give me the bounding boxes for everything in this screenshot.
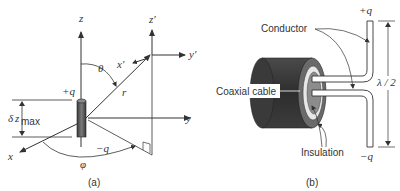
- plus-q-label-b: +q: [359, 4, 372, 16]
- half-wavelength-label: λ / 2: [376, 76, 396, 88]
- panel-a-caption: (a): [88, 177, 100, 188]
- panel-b-caption: (b): [306, 177, 318, 188]
- minus-q-label-b: −q: [360, 150, 373, 162]
- conductor-leader-upper: [315, 29, 369, 42]
- phi-arc: [43, 142, 135, 157]
- x-prime-axis: [133, 58, 148, 63]
- z-prime-label: z′: [148, 13, 156, 25]
- diagram-canvas: z y x δ z z max +q r θ φ −q: [0, 0, 400, 191]
- z-axis-label: z: [78, 12, 84, 24]
- delta-z-subscript: max: [21, 116, 40, 127]
- dim-arrow-head-down: [19, 131, 25, 136]
- dipole-cylinder-top: [77, 99, 86, 103]
- minus-q-label: −q: [96, 142, 109, 154]
- right-angle-marker: [143, 142, 150, 153]
- x-prime-label: x′: [116, 58, 125, 70]
- lambda-arrow-up: [385, 22, 391, 27]
- y-axis-label: y: [185, 112, 191, 124]
- dim-arrow-head-up: [19, 101, 25, 106]
- theta-label: θ: [98, 62, 104, 74]
- phi-label: φ: [80, 158, 86, 170]
- insulation-label: Insulation: [301, 147, 344, 158]
- lambda-arrow-down: [385, 141, 391, 146]
- panel-b-coaxial-dipole: +q −q λ / 2 Conductor Coaxial cable Insu…: [214, 4, 400, 188]
- r-label: r: [122, 86, 127, 98]
- panel-a-dipole-coordinates: z y x δ z z max +q r θ φ −q: [7, 12, 197, 188]
- y-prime-label: y′: [188, 48, 197, 60]
- delta-symbol: δ: [8, 112, 14, 124]
- coaxial-cable-label: Coaxial cable: [216, 86, 276, 97]
- x-axis-label: x: [7, 150, 13, 162]
- conductor-label: Conductor: [261, 23, 308, 34]
- plus-q-label: +q: [62, 85, 75, 97]
- delta-z-var: z: [14, 112, 20, 124]
- dipole-cylinder: [77, 101, 86, 137]
